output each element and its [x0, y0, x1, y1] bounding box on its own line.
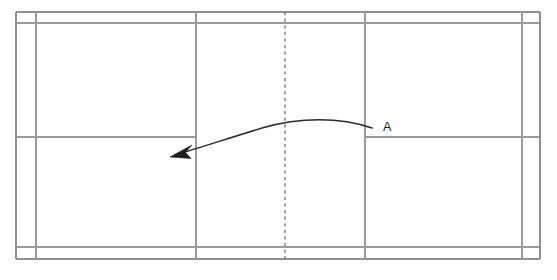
badminton-court: A: [0, 0, 557, 280]
diagram-canvas: A: [0, 0, 557, 280]
shot-arrowhead-icon: [170, 145, 192, 159]
shot-label-a: A: [383, 120, 392, 134]
shot-trajectory-path: [175, 120, 372, 155]
